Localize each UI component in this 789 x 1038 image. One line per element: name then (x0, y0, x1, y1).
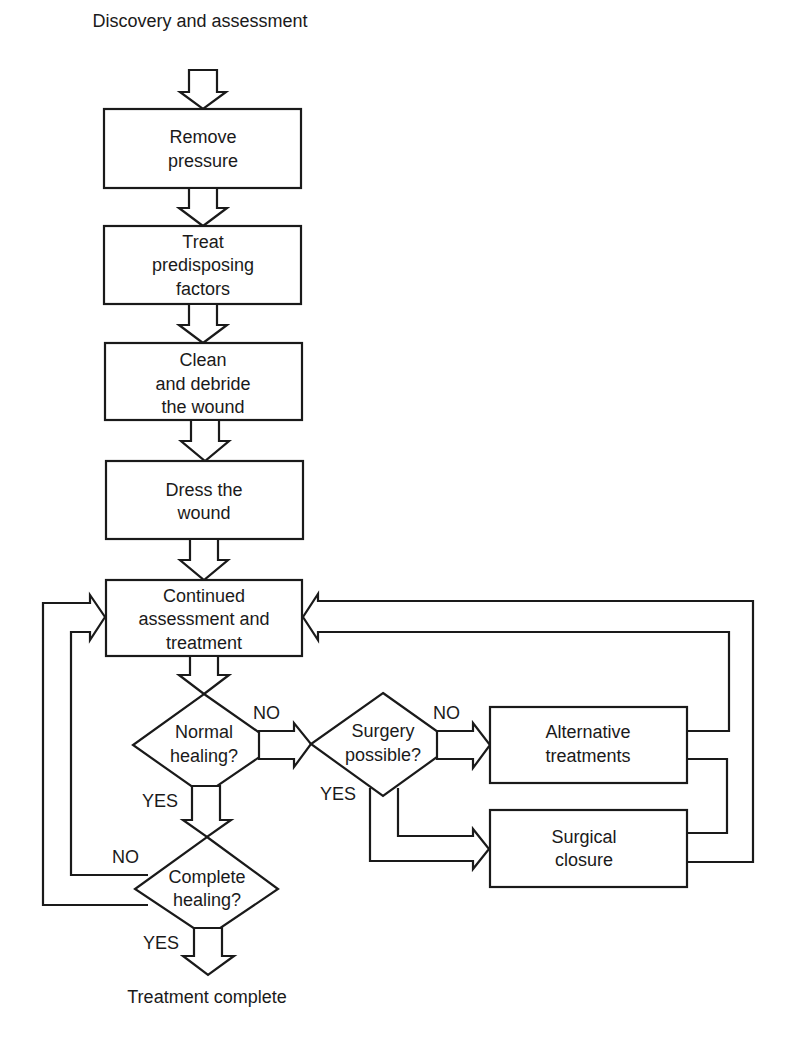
label-yes: YES (320, 784, 356, 804)
decision-complete-healing: Complete healing? (135, 837, 278, 937)
step-continued-assessment: Continued assessment and treatment (106, 580, 302, 656)
label-yes: YES (143, 933, 179, 953)
outcome-label: treatments (545, 746, 630, 766)
step-label: Remove (169, 127, 236, 147)
outcome-surgical-closure: Surgical closure (490, 810, 687, 887)
step-label: and debride (155, 374, 250, 394)
arrow-start-to-remove-pressure (180, 70, 226, 109)
label-yes: YES (142, 791, 178, 811)
arrow-treat-to-clean (179, 304, 227, 343)
label-no: NO (253, 703, 280, 723)
step-label: Clean (179, 350, 226, 370)
label-no: NO (112, 847, 139, 867)
arrow-clean-to-dress (181, 420, 229, 461)
step-label: factors (176, 279, 230, 299)
wound-care-flowchart: Discovery and assessment Remove pressure… (0, 0, 789, 1038)
arrow-surgery-no-to-alternative (437, 723, 490, 768)
arrow-complete-yes-to-end (183, 928, 234, 975)
step-label: Treat (182, 232, 223, 252)
step-label: treatment (166, 633, 242, 653)
step-remove-pressure: Remove pressure (104, 109, 301, 188)
step-label: the wound (161, 397, 244, 417)
outcome-label: closure (555, 850, 613, 870)
label-no: NO (433, 703, 460, 723)
step-label: pressure (168, 151, 238, 171)
outcome-alternative-treatments: Alternative treatments (490, 707, 687, 783)
decision-label: healing? (173, 890, 241, 910)
step-label: wound (176, 503, 230, 523)
arrow-remove-to-treat (179, 188, 227, 226)
start-label: Discovery and assessment (92, 11, 307, 31)
decision-label: Surgery (351, 721, 414, 741)
arrow-normal-no-to-surgery (259, 723, 311, 767)
decision-label: healing? (170, 746, 238, 766)
arrow-dress-to-continued (180, 539, 228, 580)
step-treat-predisposing-factors: Treat predisposing factors (104, 226, 301, 304)
step-label: Dress the (165, 480, 242, 500)
arrow-surgery-yes-to-surgical (370, 788, 489, 869)
step-label: assessment and (138, 609, 269, 629)
step-label: Continued (163, 586, 245, 606)
step-dress-the-wound: Dress the wound (106, 461, 303, 539)
decision-label: Normal (175, 722, 233, 742)
end-label: Treatment complete (127, 987, 286, 1007)
step-label: predisposing (152, 255, 254, 275)
decision-label: Complete (168, 867, 245, 887)
outcome-label: Alternative (545, 722, 630, 742)
connector-alt-to-surgical (687, 759, 727, 833)
outcome-label: Surgical (551, 827, 616, 847)
arrow-normal-yes-to-complete (183, 786, 231, 837)
decision-label: possible? (345, 745, 421, 765)
step-clean-and-debride: Clean and debride the wound (105, 343, 302, 420)
arrow-continued-to-normal-healing (179, 656, 229, 694)
